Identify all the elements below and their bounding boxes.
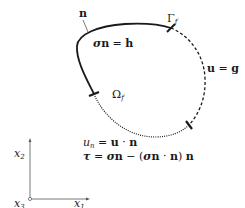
- normal-vector-line: [83, 20, 88, 32]
- normal-velocity-equation: un = u · n: [83, 136, 137, 150]
- tangential-stress-equation: τ = σn − (σn · n) n: [83, 150, 194, 163]
- fluid-domain-diagram: n Γf σn = h u = g Ωf un = u · n τ = σn −…: [0, 0, 245, 208]
- coordinate-axes: x2 x1 x3: [14, 138, 90, 208]
- origin-x3-marker-icon: [28, 197, 31, 200]
- domain-omega-label: Ωf: [112, 88, 125, 102]
- neumann-boundary-solid: [77, 24, 171, 94]
- x1-arrowhead-icon: [86, 198, 90, 201]
- x2-arrowhead-icon: [29, 138, 32, 142]
- interface-boundary-dotted: [94, 94, 189, 137]
- dirichlet-condition-label: u = g: [207, 62, 239, 75]
- normal-label: n: [79, 7, 87, 20]
- x3-axis-label: x3: [14, 197, 25, 208]
- boundary-gamma-label: Γf: [167, 12, 179, 26]
- dirichlet-boundary-dashed: [171, 28, 205, 125]
- neumann-condition-label: σn = h: [93, 37, 133, 50]
- x2-axis-label: x2: [14, 147, 25, 161]
